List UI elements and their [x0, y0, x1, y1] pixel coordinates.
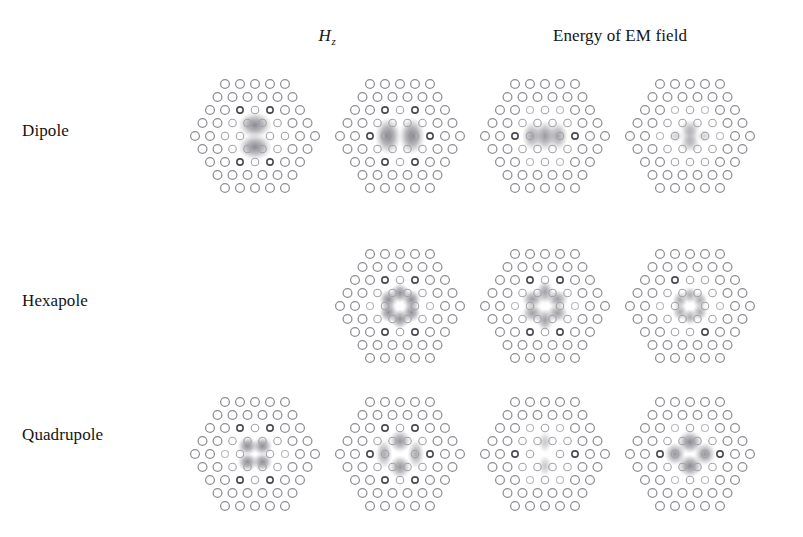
air-hole	[488, 437, 497, 446]
air-hole	[488, 289, 497, 298]
air-hole	[527, 277, 533, 283]
air-hole	[382, 477, 388, 483]
mode-field-lobes	[375, 429, 424, 478]
air-hole	[351, 476, 360, 485]
panel-hexapole-col3	[465, 230, 625, 382]
air-hole	[664, 289, 671, 296]
air-hole	[701, 250, 710, 259]
air-hole	[496, 158, 505, 167]
air-hole	[448, 463, 457, 472]
air-hole	[303, 463, 312, 472]
air-hole	[396, 276, 403, 283]
air-hole	[281, 476, 290, 485]
air-hole	[511, 476, 520, 485]
air-hole	[191, 132, 200, 141]
air-hole	[503, 289, 512, 298]
air-hole	[723, 145, 732, 154]
air-hole	[198, 463, 207, 472]
air-hole	[382, 425, 388, 431]
air-hole	[343, 315, 352, 324]
air-hole	[664, 145, 671, 152]
air-hole	[366, 328, 375, 337]
air-hole	[511, 106, 520, 115]
air-hole	[518, 341, 527, 350]
panel-hexapole-col2	[320, 230, 480, 382]
air-hole	[221, 158, 230, 167]
air-hole	[641, 302, 650, 311]
air-hole	[709, 289, 716, 296]
air-hole	[456, 450, 465, 459]
air-hole	[548, 411, 557, 420]
air-hole	[243, 489, 252, 498]
air-hole	[564, 437, 571, 444]
air-hole	[586, 106, 595, 115]
air-hole	[571, 328, 580, 337]
air-hole	[481, 450, 490, 459]
air-hole	[556, 354, 565, 363]
air-hole	[366, 398, 375, 407]
air-hole	[388, 411, 397, 420]
air-hole	[709, 145, 716, 152]
mode-field-lobes	[672, 286, 708, 325]
air-hole	[503, 489, 512, 498]
air-hole	[433, 263, 442, 272]
air-hole	[221, 132, 228, 139]
air-hole	[519, 145, 526, 152]
air-hole	[426, 424, 435, 433]
air-hole	[738, 289, 747, 298]
air-hole	[388, 341, 397, 350]
mode-field-lobes	[237, 437, 272, 472]
air-hole	[419, 315, 426, 322]
air-hole	[701, 502, 710, 511]
air-hole	[396, 502, 405, 511]
air-hole	[648, 411, 657, 420]
mode-field-lobes	[375, 117, 425, 154]
air-hole	[411, 250, 420, 259]
air-hole	[258, 93, 267, 102]
air-hole	[456, 132, 465, 141]
air-hole	[336, 302, 345, 311]
air-hole	[593, 289, 602, 298]
air-hole	[229, 437, 236, 444]
air-hole	[556, 476, 563, 483]
air-hole	[709, 119, 716, 126]
air-hole	[441, 276, 450, 285]
air-hole	[381, 184, 390, 193]
air-hole	[503, 263, 512, 272]
air-hole	[723, 463, 732, 472]
air-hole	[641, 106, 650, 115]
air-hole	[548, 171, 557, 180]
air-hole	[198, 437, 207, 446]
air-hole	[281, 132, 288, 139]
air-hole	[206, 450, 215, 459]
row-label-quadrupole: Quadrupole	[22, 425, 103, 445]
air-hole	[448, 119, 457, 128]
air-hole	[251, 184, 260, 193]
air-hole	[251, 502, 260, 511]
panel-quadrupole-col1	[175, 378, 335, 530]
air-hole	[656, 106, 665, 115]
air-hole	[686, 80, 695, 89]
air-hole	[686, 328, 693, 335]
air-hole	[198, 145, 207, 154]
air-hole	[731, 106, 740, 115]
air-hole	[556, 106, 563, 113]
air-hole	[656, 328, 665, 337]
air-hole	[578, 289, 587, 298]
air-hole	[686, 106, 693, 113]
air-hole	[716, 302, 723, 309]
air-hole	[441, 302, 450, 311]
air-hole	[267, 107, 273, 113]
air-hole	[578, 315, 587, 324]
air-hole	[656, 398, 665, 407]
air-hole	[686, 398, 695, 407]
air-hole	[396, 158, 403, 165]
air-hole	[296, 132, 305, 141]
air-hole	[541, 424, 548, 431]
air-hole	[503, 93, 512, 102]
air-hole	[412, 159, 418, 165]
air-hole	[433, 411, 442, 420]
air-hole	[418, 171, 427, 180]
air-hole	[382, 159, 388, 165]
air-hole	[671, 328, 678, 335]
